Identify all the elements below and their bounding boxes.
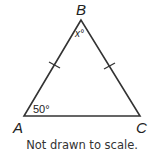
angle-label-a: 50° xyxy=(33,103,50,115)
angle-label-b: x° xyxy=(74,28,84,39)
tick-mark-ab xyxy=(49,62,60,68)
triangle-diagram: B A C x° 50° xyxy=(0,0,164,159)
vertex-label-a: A xyxy=(12,119,23,136)
tick-mark-bc xyxy=(104,63,115,69)
vertex-label-b: B xyxy=(76,1,86,18)
vertex-label-c: C xyxy=(136,119,147,136)
scale-caption: Not drawn to scale. xyxy=(0,138,164,152)
